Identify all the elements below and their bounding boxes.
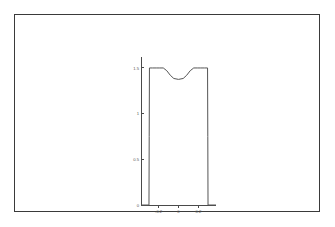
y-tick-label-0: 0 [137,203,140,208]
y-tick-label-1-5: 1.5 [133,66,139,71]
plot-area: 0 0.5 1 1.5 -0.2 0 0.2 [141,57,216,205]
x-tick-label-neg-0-2: -0.2 [155,209,163,214]
x-tick-label-0-2: 0.2 [195,209,201,214]
plot-svg: 0 0.5 1 1.5 -0.2 0 0.2 [101,49,231,224]
y-tick-label-1: 1 [137,111,140,116]
y-tick-label-0-5: 0.5 [133,157,139,162]
data-curve [141,68,216,205]
figure-frame: 0 0.5 1 1.5 -0.2 0 0.2 [14,14,320,212]
x-tick-label-0: 0 [177,209,180,214]
